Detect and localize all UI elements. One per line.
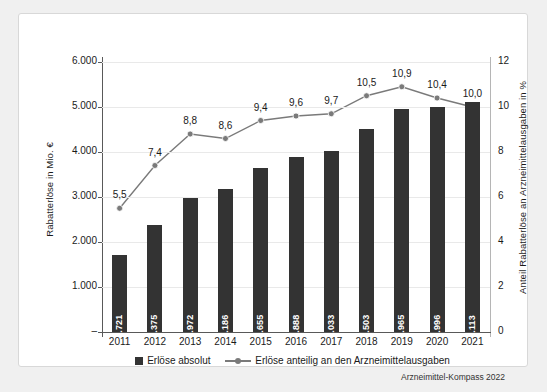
y-axis-right-line [490, 57, 491, 337]
bar-value-label: 3.655 [255, 314, 265, 338]
x-axis-tick-label: 2020 [417, 336, 457, 347]
y-axis-left-tick-label: – [91, 325, 97, 336]
line-value-label: 9,7 [316, 95, 346, 106]
bar-value-label: 5.113 [467, 315, 477, 338]
legend-label-bars: Erlöse absolut [147, 355, 210, 366]
y-axis-left-tick-mark [98, 107, 102, 108]
line-value-label: 10,0 [457, 88, 487, 99]
legend-item-bars: Erlöse absolut [135, 354, 210, 366]
y-axis-left-tick-label: 4.000 [72, 145, 97, 156]
x-axis-tick-label: 2017 [311, 336, 351, 347]
bar-value-label: 4.965 [396, 314, 406, 338]
line-marker[interactable] [328, 111, 334, 117]
y-axis-right-tick-label: 6 [498, 190, 504, 201]
bar-value-label: 4.503 [361, 314, 371, 338]
page-root: Rabatterlöse in Mio. € Anteil Rabatterlö… [0, 0, 547, 392]
line-value-label: 7,4 [140, 147, 170, 158]
legend-label-line: Erlöse anteilig an den Arzneimittelausga… [255, 355, 450, 366]
bar-value-label: 3.186 [220, 314, 230, 338]
y-axis-left-ticks: –1.0002.0003.0004.0005.0006.000 [47, 14, 97, 392]
plot-area: 1.7212.3752.9723.1863.6553.8884.0334.503… [102, 62, 490, 332]
x-axis-tick-label: 2015 [241, 336, 281, 347]
y-axis-right-tick-label: 0 [498, 325, 504, 336]
y-axis-left-tick-label: 6.000 [72, 55, 97, 66]
x-axis-tick-label: 2019 [382, 336, 422, 347]
chart-legend: Erlöse absolut Erlöse anteilig an den Ar… [19, 354, 547, 366]
line-marker[interactable] [258, 118, 264, 124]
line-marker[interactable] [434, 95, 440, 101]
bar-swatch-icon [135, 357, 143, 365]
line-marker[interactable] [222, 136, 228, 142]
bar-value-label: 4.033 [326, 314, 336, 338]
y-axis-right-tick-label: 4 [498, 235, 504, 246]
x-axis-tick-label: 2013 [170, 336, 210, 347]
chart-card: Rabatterlöse in Mio. € Anteil Rabatterlö… [18, 13, 528, 367]
line-value-label: 5,5 [105, 189, 135, 200]
bar-value-label: 2.375 [149, 314, 159, 338]
y-axis-right-tick-label: 10 [498, 100, 509, 111]
line-value-label: 10,9 [387, 68, 417, 79]
y-axis-left-tick-mark [98, 152, 102, 153]
y-axis-right-tick-label: 8 [498, 145, 504, 156]
y-axis-left-tick-mark [98, 62, 102, 63]
bar-value-label: 3.888 [291, 314, 301, 338]
line-value-label: 9,4 [246, 102, 276, 113]
y-axis-right-tick-label: 2 [498, 280, 504, 291]
line-swatch-icon [225, 357, 251, 365]
bar[interactable] [430, 107, 445, 332]
bar-value-label: 4.996 [432, 314, 442, 338]
bar[interactable] [465, 102, 480, 332]
bar[interactable] [218, 189, 233, 332]
legend-item-line: Erlöse anteilig an den Arzneimittelausga… [225, 354, 450, 366]
bar[interactable] [359, 129, 374, 332]
x-axis-tick-label: 2014 [205, 336, 245, 347]
y-axis-left-tick-label: 3.000 [72, 190, 97, 201]
x-axis-tick-label: 2021 [452, 336, 492, 347]
y-axis-left-tick-mark [98, 242, 102, 243]
bar[interactable] [183, 198, 198, 332]
y-axis-left-tick-mark [98, 332, 102, 333]
line-marker[interactable] [152, 163, 158, 169]
y-axis-left-tick-label: 2.000 [72, 235, 97, 246]
line-marker[interactable] [117, 205, 123, 211]
gridline [102, 62, 490, 63]
bar-value-label: 1.721 [114, 314, 124, 338]
bar[interactable] [324, 151, 339, 332]
y-axis-right-tick-label: 12 [498, 55, 509, 66]
line-value-label: 9,6 [281, 97, 311, 108]
line-marker[interactable] [187, 131, 193, 137]
x-axis-tick-label: 2018 [347, 336, 387, 347]
x-axis-tick-label: 2016 [276, 336, 316, 347]
line-marker[interactable] [399, 84, 405, 90]
line-value-label: 8,6 [210, 120, 240, 131]
line-value-label: 8,8 [175, 115, 205, 126]
x-axis-tick-label: 2012 [135, 336, 175, 347]
x-axis-tick-label: 2011 [100, 336, 140, 347]
line-marker[interactable] [293, 113, 299, 119]
y-axis-left-tick-mark [98, 197, 102, 198]
y-axis-left-tick-label: 5.000 [72, 100, 97, 111]
line-value-label: 10,5 [352, 77, 382, 88]
bar[interactable] [289, 157, 304, 332]
line-marker[interactable] [364, 93, 370, 99]
bar-value-label: 2.972 [185, 314, 195, 338]
bar[interactable] [394, 109, 409, 332]
bar[interactable] [253, 168, 268, 332]
source-note: Arzneimittel-Kompass 2022 [401, 372, 505, 382]
y-axis-left-tick-mark [98, 287, 102, 288]
line-value-label: 10,4 [422, 79, 452, 90]
y-axis-left-tick-label: 1.000 [72, 280, 97, 291]
y-axis-right-ticks: 024681012 [498, 14, 528, 392]
